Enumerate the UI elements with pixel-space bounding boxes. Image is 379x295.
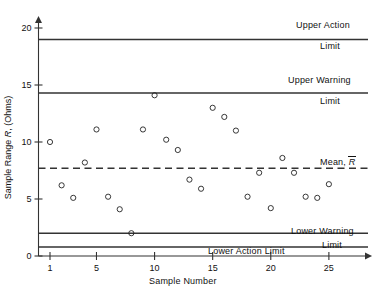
data-point-6	[106, 194, 111, 199]
data-point-21	[280, 155, 285, 160]
data-point-3	[71, 195, 76, 200]
data-point-20	[268, 206, 273, 211]
data-points	[47, 93, 331, 236]
x-tick-label-25: 25	[324, 263, 334, 273]
data-point-19	[257, 170, 262, 175]
data-point-11	[164, 137, 169, 142]
data-point-16	[222, 114, 227, 119]
mean-line-label-symbol: R	[349, 157, 356, 167]
lower-warning-limit-label-line1: Lower Warning	[291, 226, 354, 236]
upper-warning-limit-label-line2: Limit	[320, 96, 340, 106]
mean-line-label: Mean, R	[320, 157, 355, 167]
x-tick-label-5: 5	[94, 263, 99, 273]
x-axis-title: Sample Number	[149, 276, 217, 286]
y-tick-label-0: 0	[26, 251, 31, 261]
data-point-24	[315, 195, 320, 200]
y-tick-label-15: 15	[21, 80, 31, 90]
y-tick-label-5: 5	[26, 194, 31, 204]
data-point-18	[245, 194, 250, 199]
upper-action-limit-label-line1: Upper Action	[296, 20, 350, 30]
x-tick-label-20: 20	[266, 263, 276, 273]
x-tick-label-15: 15	[208, 263, 218, 273]
y-tick-label-20: 20	[21, 23, 31, 33]
data-point-4	[82, 160, 87, 165]
lower-warning-limit-label-line2: Limit	[322, 240, 342, 250]
data-point-1	[47, 139, 52, 144]
data-point-2	[59, 183, 64, 188]
data-point-22	[291, 170, 296, 175]
data-point-14	[198, 186, 203, 191]
data-point-23	[303, 194, 308, 199]
upper-action-limit-label-line2: Limit	[320, 41, 340, 51]
data-point-9	[140, 127, 145, 132]
x-tick-label-1: 1	[47, 263, 52, 273]
upper-warning-limit-label-line1: Upper Warning	[288, 75, 351, 85]
data-point-25	[326, 182, 331, 187]
mean-line-label-text: Mean,	[320, 157, 346, 167]
data-point-17	[233, 128, 238, 133]
data-point-5	[94, 127, 99, 132]
chart-container: 051015201510152025 Sample Range R, (Ohms…	[0, 0, 379, 295]
y-tick-label-10: 10	[21, 137, 31, 147]
data-point-12	[175, 147, 180, 152]
data-point-13	[187, 177, 192, 182]
x-tick-label-10: 10	[150, 263, 160, 273]
data-point-7	[117, 207, 122, 212]
control-limit-lines	[39, 39, 369, 246]
lower-action-limit-label: Lower Action Limit	[208, 246, 285, 256]
data-point-15	[210, 105, 215, 110]
